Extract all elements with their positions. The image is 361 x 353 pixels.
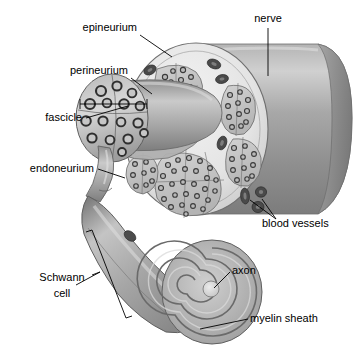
nerve-diagram-svg: epineurium nerve perineurium fascicle en… xyxy=(0,0,361,353)
label-endoneurium: endoneurium xyxy=(30,162,94,174)
label-myelin-sheath: myelin sheath xyxy=(250,312,318,324)
label-fascicle: fascicle xyxy=(45,111,82,123)
label-schwann-cell-line2: cell xyxy=(54,287,71,299)
endoneurium-body xyxy=(86,146,114,202)
label-axon: axon xyxy=(232,264,256,276)
label-epineurium: epineurium xyxy=(83,21,137,33)
nerve-anatomy-figure: epineurium nerve perineurium fascicle en… xyxy=(0,0,361,353)
label-blood-vessels: blood vessels xyxy=(262,217,329,229)
label-nerve: nerve xyxy=(254,12,282,24)
endoneurium-tube xyxy=(86,146,114,202)
label-perineurium: perineurium xyxy=(70,64,128,76)
axon-core xyxy=(203,281,219,297)
label-schwann-cell-line1: Schwann xyxy=(39,271,84,283)
leader-epineurium xyxy=(140,35,172,57)
blood-vessel xyxy=(255,187,266,197)
